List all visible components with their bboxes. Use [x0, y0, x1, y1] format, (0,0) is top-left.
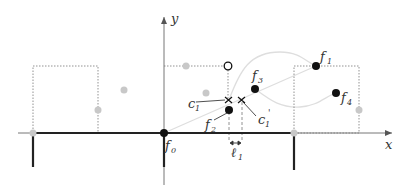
- label-f1: f 1: [319, 49, 332, 66]
- svg-text:ℓ: ℓ: [231, 145, 237, 160]
- svg-text:4: 4: [346, 98, 352, 107]
- svg-text:2: 2: [210, 125, 216, 134]
- left-dotted-box: [33, 66, 98, 133]
- label-f3: f 3: [251, 68, 263, 85]
- light-curves: [164, 52, 336, 133]
- gray-points: [30, 63, 363, 137]
- point-f4: [332, 89, 340, 97]
- label-f4: f 4: [340, 90, 352, 107]
- dotted-guides: [33, 66, 359, 140]
- svg-text:0: 0: [171, 146, 176, 155]
- svg-text:1: 1: [238, 153, 243, 162]
- black-points: [160, 62, 340, 137]
- diagram-canvas: y x f 0 f 1 f 2 f 3 f 4 c 1 c 1 ' ℓ 1: [0, 0, 406, 192]
- thick-segments: [33, 133, 294, 170]
- point-f0: [160, 129, 168, 137]
- point-f2: [225, 106, 233, 114]
- curve-f3-f4: [255, 89, 336, 107]
- svg-text:1: 1: [327, 57, 332, 66]
- y-axis-label: y: [170, 11, 179, 26]
- svg-text:1: 1: [265, 120, 270, 129]
- svg-text:3: 3: [258, 76, 263, 85]
- label-f0: f 0: [164, 138, 176, 155]
- svg-text:f: f: [319, 49, 327, 64]
- open-point: [224, 62, 232, 70]
- curve-c1-f1: [229, 52, 316, 100]
- svg-text:': ': [268, 108, 270, 118]
- x-axis-label: x: [385, 137, 393, 152]
- svg-text:1: 1: [195, 104, 200, 113]
- point-f3: [251, 85, 259, 93]
- label-l1: ℓ 1: [231, 145, 243, 162]
- diagram-svg: y x f 0 f 1 f 2 f 3 f 4 c 1 c 1 ' ℓ 1: [0, 0, 406, 192]
- label-c1-prime: c 1 ': [258, 108, 270, 129]
- point-f1: [312, 62, 320, 70]
- label-c1: c 1: [188, 96, 200, 113]
